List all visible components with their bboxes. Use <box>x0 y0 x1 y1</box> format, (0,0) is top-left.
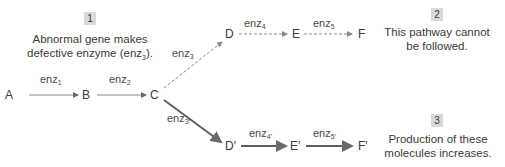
annotation-3-line1: Production of these <box>377 132 499 146</box>
molecule-d: D <box>225 28 234 40</box>
annotation-2-line2: be followed. <box>377 39 497 53</box>
annotation-1-line1: Abnormal gene makes <box>20 32 160 46</box>
step-badge-1: 1 <box>84 12 96 25</box>
enzyme-label-enz4-prime: enz4′ <box>249 128 272 142</box>
annotation-2-line1: This pathway cannot <box>377 25 497 39</box>
molecule-a: A <box>5 89 13 101</box>
enzyme-label-enz5: enz5 <box>313 18 335 32</box>
enzyme-label-enz1: enz1 <box>40 74 62 88</box>
molecule-f-prime: F′ <box>358 140 368 152</box>
annotation-1-line2: defective enzyme (enz3). <box>20 46 160 65</box>
molecule-c: C <box>150 89 159 101</box>
annotation-2: This pathway cannot be followed. <box>377 25 497 53</box>
molecule-b: B <box>82 89 90 101</box>
enzyme-label-enz3: enz3 <box>172 48 194 62</box>
enzyme-label-enz2: enz2 <box>109 74 131 88</box>
molecule-d-prime: D′ <box>225 140 236 152</box>
step-badge-3: 3 <box>431 114 443 127</box>
molecule-e: E <box>292 28 300 40</box>
annotation-1: Abnormal gene makes defective enzyme (en… <box>20 32 160 65</box>
enzyme-label-enz3-prime: enz3′ <box>167 113 190 127</box>
molecule-e-prime: E′ <box>290 140 300 152</box>
annotation-3-line2: molecules increases. <box>377 146 499 160</box>
step-badge-2: 2 <box>431 8 443 21</box>
enzyme-label-enz5-prime: enz5′ <box>313 128 336 142</box>
annotation-3: Production of these molecules increases. <box>377 132 499 160</box>
molecule-f: F <box>358 28 365 40</box>
enzyme-label-enz4: enz4 <box>244 18 266 32</box>
